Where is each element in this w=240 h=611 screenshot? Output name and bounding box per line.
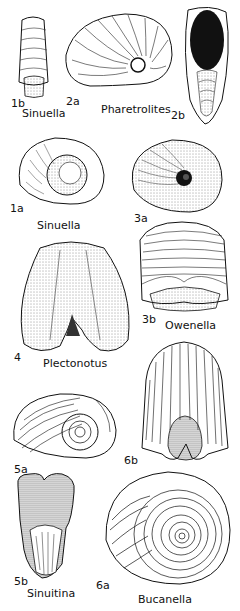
figure-6b-bucanella bbox=[142, 342, 228, 460]
figure-3b-owenella bbox=[140, 222, 228, 311]
figure-1a-sinuella bbox=[19, 138, 104, 204]
figure-number-5b: 5b bbox=[14, 576, 28, 588]
figure-5a-sinuitina bbox=[14, 394, 116, 458]
figure-5b-sinuitina bbox=[18, 474, 75, 578]
figure-number-2a: 2a bbox=[66, 96, 80, 108]
genus-label-sinuella-top: Sinuella bbox=[22, 108, 66, 120]
genus-label-bucanella: Bucanella bbox=[138, 594, 192, 606]
genus-label-sinuella-mid: Sinuella bbox=[37, 220, 81, 232]
figure-number-1a: 1a bbox=[10, 203, 24, 215]
genus-label-owenella: Owenella bbox=[165, 320, 216, 332]
figure-6a-bucanella bbox=[106, 472, 230, 584]
figure-4-plectonotus bbox=[21, 242, 129, 351]
figure-1b-sinuella bbox=[19, 17, 48, 98]
genus-label-pharetrolites: Pharetrolites bbox=[101, 104, 171, 116]
figure-number-2b: 2b bbox=[171, 110, 185, 122]
figure-number-6b: 6b bbox=[124, 455, 138, 467]
genus-label-plectonotus: Plectonotus bbox=[43, 358, 107, 370]
figure-2a-pharetrolites bbox=[66, 14, 172, 86]
figure-number-6a: 6a bbox=[96, 580, 110, 592]
plate-illustrations bbox=[0, 0, 240, 611]
fossil-plate: 1b Sinuella 2a Pharetrolites 2b 1a Sinue… bbox=[0, 0, 240, 611]
figure-number-4: 4 bbox=[14, 352, 21, 364]
genus-label-sinuitina: Sinuitina bbox=[27, 588, 75, 600]
figure-number-3b: 3b bbox=[142, 314, 156, 326]
figure-3a-owenella bbox=[132, 140, 222, 212]
figure-2b-pharetrolites bbox=[185, 7, 228, 124]
figure-number-3a: 3a bbox=[134, 213, 148, 225]
figure-number-5a: 5a bbox=[14, 464, 28, 476]
